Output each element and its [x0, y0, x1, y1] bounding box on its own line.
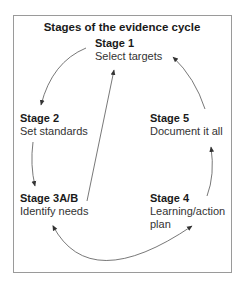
arrow-stage5-to-stage1 — [173, 57, 205, 109]
flow-arrows — [0, 0, 244, 287]
arrow-stage2-to-stage3 — [32, 142, 35, 186]
arrow-stage4-stage3-arc — [53, 226, 192, 261]
arrow-stage3-to-stage1 — [87, 70, 114, 201]
arrow-stage4-to-stage5 — [207, 147, 212, 196]
arrow-stage1-to-stage2 — [41, 48, 86, 105]
